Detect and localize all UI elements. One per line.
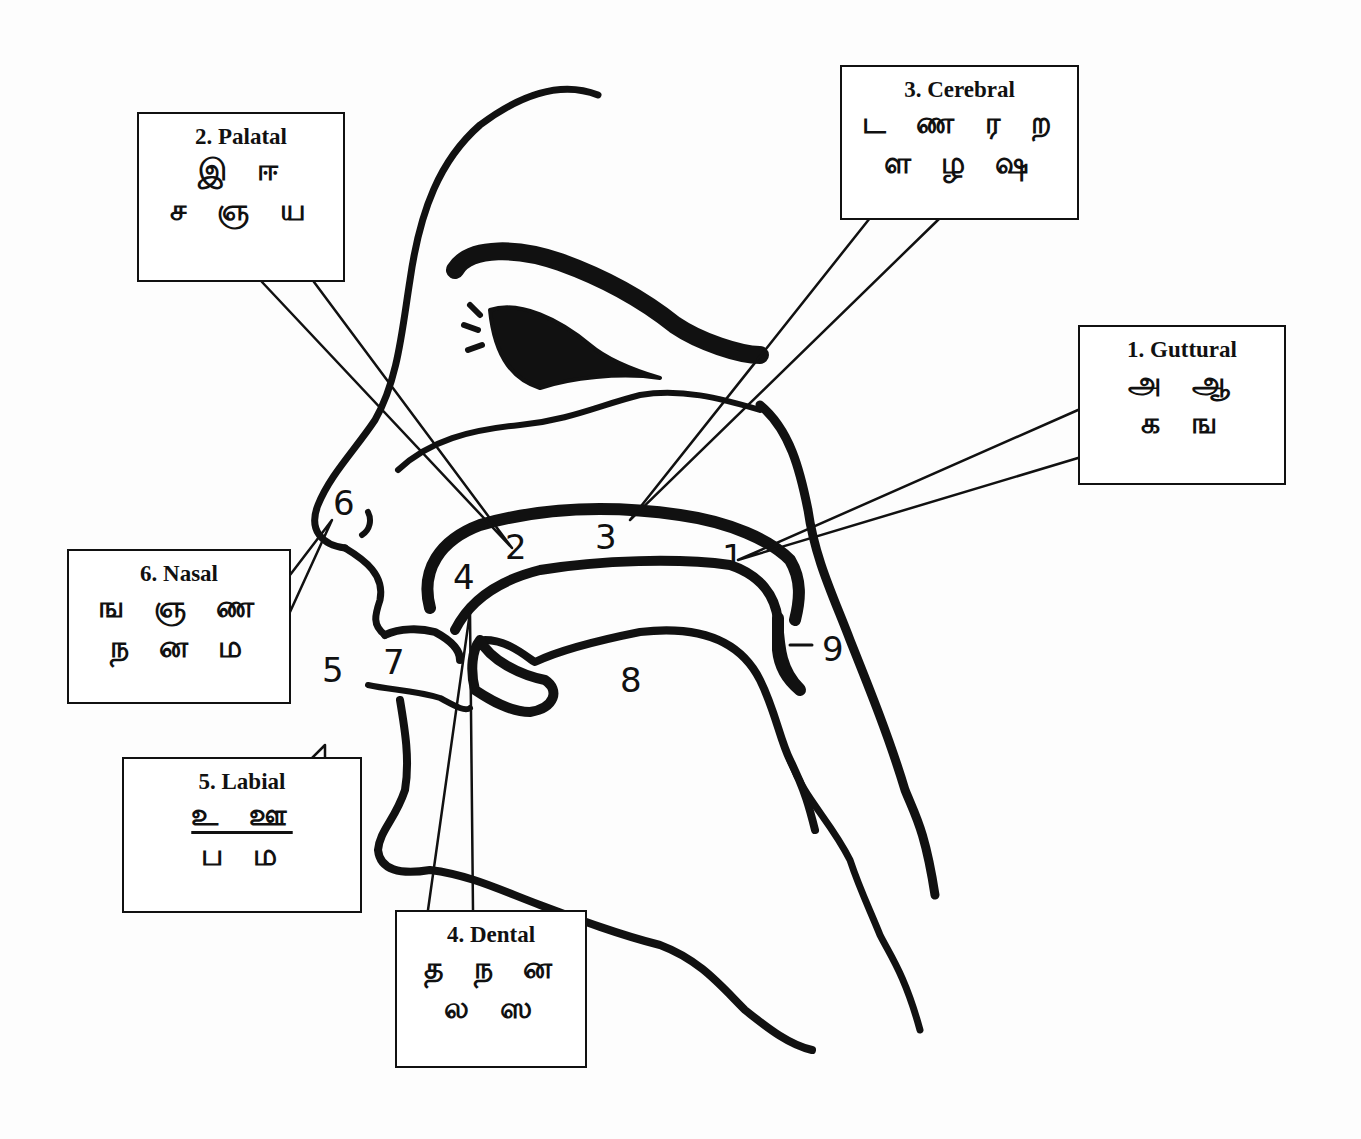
- tongue: [485, 630, 815, 830]
- throat-line: [790, 760, 920, 1030]
- callout-title: 4. Dental: [397, 922, 585, 948]
- marker-7: 7: [383, 645, 405, 679]
- nose-outline: [345, 548, 385, 635]
- callout-letters-row: ந ன ம: [69, 627, 289, 667]
- callout-nasal: 6. Nasal ங ஞ ண ந ன ம: [67, 549, 291, 704]
- callout-title: 6. Nasal: [69, 561, 289, 587]
- callout-title: 5. Labial: [124, 769, 360, 795]
- callout-letters-row: உ ஊ: [124, 795, 360, 835]
- callout-cerebral: 3. Cerebral ட ண ர ற ள ழ ஷ: [840, 65, 1079, 220]
- pointer-cerebral: [630, 218, 940, 520]
- pointer-palatal: [262, 282, 512, 548]
- nostril: [362, 512, 370, 535]
- callout-title: 1. Guttural: [1080, 337, 1284, 363]
- lower-lip: [368, 685, 470, 709]
- eyelashes: [464, 305, 482, 350]
- marker-5: 5: [322, 653, 344, 687]
- callout-letters-row: ள ழ ஷ: [842, 143, 1077, 183]
- callout-title: 3. Cerebral: [842, 77, 1077, 103]
- callout-palatal: 2. Palatal இ ஈ ச ஞ ய: [137, 112, 345, 282]
- pointer-guttural: [738, 410, 1078, 560]
- callout-labial: 5. Labial உ ஊ ப ம: [122, 757, 362, 913]
- underlined-letters: உ ஊ: [191, 797, 292, 832]
- callout-guttural: 1. Guttural அ ஆ க ங: [1078, 325, 1286, 485]
- marker-9: 9: [822, 632, 844, 666]
- pointer-dental: [428, 612, 473, 910]
- callout-letters-row: த ந ன: [397, 948, 585, 988]
- callout-letters-row: ச ஞ ய: [139, 190, 343, 230]
- callout-letters-row: ங ஞ ண: [69, 587, 289, 627]
- callout-letters-row: ல ஸ: [397, 988, 585, 1028]
- callout-letters-row: க ங: [1080, 403, 1284, 443]
- callout-letters-row: அ ஆ: [1080, 363, 1284, 403]
- marker-3: 3: [595, 520, 617, 554]
- callout-letters-row: ட ண ர ற: [842, 103, 1077, 143]
- marker-1: 1: [722, 540, 744, 574]
- uvula: [778, 618, 800, 690]
- marker-8: 8: [620, 663, 642, 697]
- eye: [490, 307, 660, 388]
- articulation-diagram: 1 2 3 4 5 6 7 8 9 2. Palatal இ ஈ ச ஞ ய 3…: [0, 0, 1361, 1139]
- pointer-nasal: [290, 520, 332, 612]
- marker-6: 6: [333, 486, 355, 520]
- callout-title: 2. Palatal: [139, 124, 343, 150]
- forehead-outline: [315, 89, 598, 548]
- marker-4: 4: [453, 560, 475, 594]
- callout-letters-row: ப ம: [124, 835, 360, 875]
- callout-letters-row: இ ஈ: [139, 150, 343, 190]
- callout-dental: 4. Dental த ந ன ல ஸ: [395, 910, 587, 1068]
- marker-2: 2: [505, 530, 527, 564]
- cheek-line: [398, 393, 760, 470]
